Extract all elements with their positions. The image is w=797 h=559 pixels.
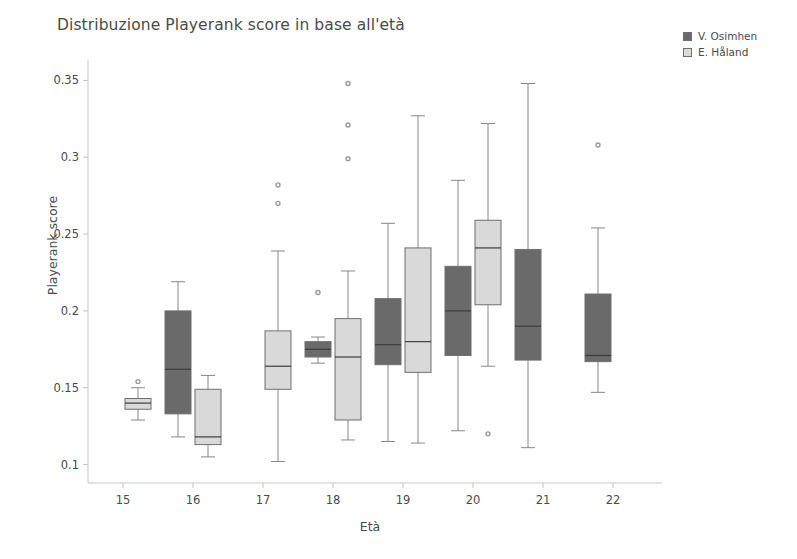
- y-tick-label: 0.1: [61, 458, 79, 472]
- box-osimhen-age-22: [585, 143, 611, 392]
- box-rect: [515, 249, 541, 360]
- x-tick-label: 20: [466, 493, 481, 507]
- box-rect: [125, 398, 151, 409]
- outlier-point: [346, 157, 350, 161]
- x-tick-label: 19: [396, 493, 411, 507]
- x-tick-label: 21: [536, 493, 551, 507]
- legend-swatch-icon: [683, 32, 692, 41]
- x-tick-label: 16: [186, 493, 201, 507]
- legend-item-label: E. Håland: [698, 47, 748, 58]
- outlier-point: [346, 82, 350, 86]
- box-rect: [335, 319, 361, 420]
- outlier-point: [276, 201, 280, 205]
- box-haland-age-19: [405, 116, 431, 443]
- y-tick-label: 0.2: [61, 304, 79, 318]
- y-tick-label: 0.35: [53, 73, 79, 87]
- legend-item-haland[interactable]: E. Håland: [683, 44, 757, 60]
- box-rect: [195, 389, 221, 444]
- outlier-point: [346, 123, 350, 127]
- box-haland-age-20: [475, 123, 501, 435]
- box-rect: [265, 331, 291, 389]
- box-osimhen-age-20: [445, 180, 471, 430]
- box-haland-age-17: [265, 183, 291, 462]
- box-osimhen-age-16: [165, 282, 191, 437]
- x-tick-label: 18: [326, 493, 341, 507]
- box-haland-age-15: [125, 380, 151, 420]
- outlier-point: [276, 183, 280, 187]
- x-tick-label: 17: [256, 493, 271, 507]
- box-haland-age-18: [335, 82, 361, 440]
- box-rect: [585, 294, 611, 362]
- box-rect: [475, 220, 501, 305]
- box-osimhen-age-18: [305, 290, 331, 363]
- chart-legend: V. OsimhenE. Håland: [683, 28, 757, 60]
- box-rect: [375, 299, 401, 365]
- chart-figure: Distribuzione Playerank score in base al…: [0, 0, 797, 559]
- box-osimhen-age-19: [375, 223, 401, 441]
- box-haland-age-16: [195, 375, 221, 456]
- outlier-point: [316, 290, 320, 294]
- y-tick-label: 0.3: [61, 150, 79, 164]
- y-axis-label: Playerank score: [45, 186, 60, 306]
- y-tick-label: 0.15: [53, 381, 79, 395]
- box-rect: [405, 248, 431, 372]
- box-rect: [165, 311, 191, 414]
- legend-item-osimhen[interactable]: V. Osimhen: [683, 28, 757, 44]
- boxplot-canvas: 0.10.150.20.250.30.351516171819202122: [0, 0, 797, 559]
- x-tick-label: 22: [606, 493, 621, 507]
- outlier-point: [486, 432, 490, 436]
- x-axis-label: Età: [300, 519, 440, 534]
- box-osimhen-age-21: [515, 84, 541, 448]
- outlier-point: [136, 380, 140, 384]
- outlier-point: [596, 143, 600, 147]
- legend-swatch-icon: [683, 48, 692, 57]
- legend-item-label: V. Osimhen: [698, 31, 757, 42]
- x-tick-label: 15: [116, 493, 131, 507]
